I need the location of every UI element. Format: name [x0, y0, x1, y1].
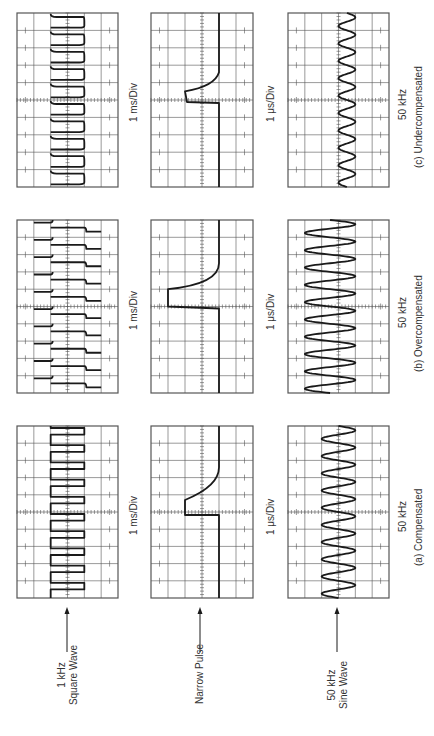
- scope-panel-b-square: [17, 220, 118, 393]
- oscilloscope-grid: [0, 0, 434, 736]
- input-label-square-line2: Square Wave: [68, 640, 80, 710]
- frequency-label-sine-a: 50 kHz: [397, 501, 409, 532]
- scope-panel-a-sine: [288, 426, 389, 598]
- timebase-label-square-b: 1 ms/Div: [128, 291, 140, 330]
- input-label-pulse-line1: Narrow Pulse: [194, 638, 206, 710]
- input-label-sine: 50 kHz Sine Wave: [326, 650, 350, 720]
- timebase-label-square-a: 1 ms/Div: [128, 496, 140, 535]
- scope-panel-a-square: [17, 426, 118, 598]
- input-label-sine-line1: 50 kHz: [326, 650, 338, 720]
- scope-panel-b-sine: [288, 220, 389, 393]
- scope-panel-c-pulse: [151, 13, 253, 187]
- caption-c: (c) Undercompensated: [413, 66, 425, 168]
- frequency-label-sine-b: 50 kHz: [397, 297, 409, 328]
- timebase-label-pulse-a: 1 μs/Div: [265, 499, 277, 535]
- input-label-square: 1 kHz Square Wave: [56, 640, 80, 710]
- input-label-sine-line2: Sine Wave: [338, 650, 350, 720]
- timebase-label-pulse-b: 1 μs/Div: [265, 294, 277, 330]
- arrow-up-icon: [335, 607, 340, 652]
- scope-panel-a-pulse: [151, 426, 253, 598]
- scope-panel-c-square: [17, 13, 118, 187]
- caption-a: (a) Compensated: [413, 489, 425, 566]
- timebase-label-square-c: 1 ms/Div: [128, 83, 140, 122]
- probe-compensation-figure: 1 ms/Div 1 μs/Div 50 kHz (c) Undercompen…: [0, 0, 434, 736]
- timebase-label-pulse-c: 1 μs/Div: [265, 86, 277, 122]
- frequency-label-sine-c: 50 kHz: [397, 89, 409, 120]
- input-label-square-line1: 1 kHz: [56, 640, 68, 710]
- caption-b: (b) Overcompensated: [413, 275, 425, 372]
- input-label-pulse: Narrow Pulse: [194, 638, 206, 710]
- scope-panel-c-sine: [288, 13, 389, 187]
- scope-panel-b-pulse: [151, 220, 253, 393]
